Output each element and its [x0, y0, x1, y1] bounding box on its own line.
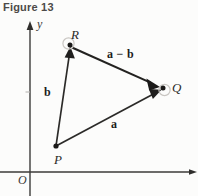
figure-container: Figure 13: [0, 0, 198, 196]
vector-a-group: [56, 89, 162, 146]
x-axis-arrowhead-icon: [189, 169, 197, 175]
point-R-dot: [68, 43, 73, 48]
y-axis-label: y: [37, 17, 42, 32]
point-label-Q: Q: [172, 80, 181, 96]
vector-a-arrowhead-icon: [149, 89, 162, 99]
vector-label-a-minus-b: a − b: [107, 47, 134, 62]
axes-group: [0, 21, 197, 196]
y-axis-arrowhead-icon: [27, 21, 34, 30]
point-label-R: R: [71, 27, 79, 43]
vector-label-a: a: [111, 117, 117, 132]
vector-b-group: [56, 47, 75, 147]
vector-b-shaft: [56, 55, 69, 146]
point-Q-dot: [161, 86, 166, 91]
vector-diagram-canvas: [0, 0, 198, 196]
vector-a-shaft: [56, 95, 153, 147]
vector-a-minus-b-arrowhead-icon: [146, 78, 160, 90]
point-label-P: P: [54, 152, 62, 168]
vector-label-b: b: [44, 85, 51, 100]
origin-label: O: [18, 173, 27, 188]
point-P-dot: [53, 143, 58, 148]
